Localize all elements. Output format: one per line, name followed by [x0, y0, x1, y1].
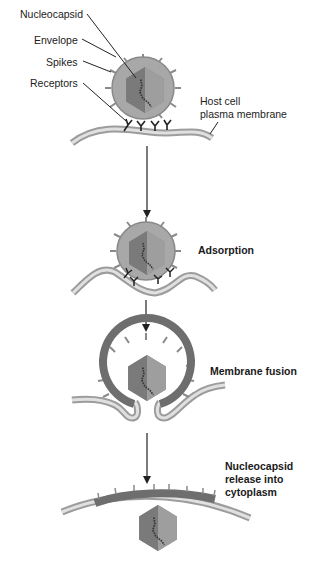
- label-host-cell: Host cell: [200, 95, 240, 107]
- stage-membrane-fusion: [72, 318, 225, 484]
- stage-label-release-3: cytoplasm: [225, 486, 277, 499]
- label-envelope: Envelope: [34, 34, 78, 46]
- stage-initial: [72, 14, 218, 218]
- stage-nucleocapsid-release: [62, 484, 250, 551]
- label-receptors: Receptors: [30, 77, 78, 89]
- stage-label-release-2: release into: [225, 473, 283, 486]
- stage-label-release-1: Nucleocapsid: [225, 460, 293, 473]
- label-spikes: Spikes: [46, 56, 78, 68]
- stage-label-adsorption: Adsorption: [198, 244, 254, 257]
- label-nucleocapsid: Nucleocapsid: [20, 8, 83, 20]
- label-plasma-membrane: plasma membrane: [200, 108, 287, 120]
- stage-label-membrane-fusion: Membrane fusion: [210, 365, 297, 378]
